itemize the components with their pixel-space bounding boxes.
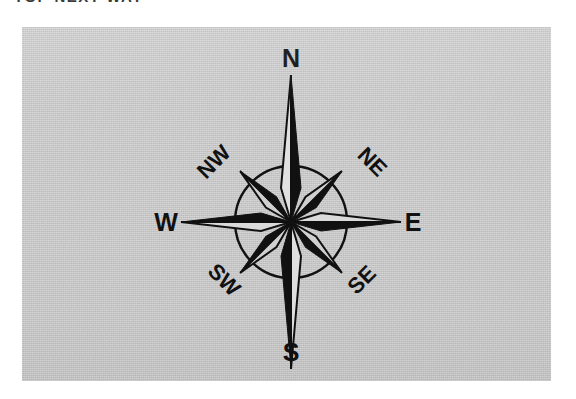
- clipped-caption-text: TOP NEXT WAY: [14, 0, 143, 5]
- compass-point-e: [291, 213, 401, 231]
- clipped-caption: TOP NEXT WAY: [0, 0, 576, 8]
- figure-panel: N E S W NE SE SW NW: [22, 27, 551, 381]
- compass-label-northeast: NE: [353, 142, 392, 181]
- compass-label-south: S: [283, 338, 300, 366]
- compass-hub: [288, 219, 295, 226]
- compass-rose-figure: N E S W NE SE SW NW: [22, 27, 551, 381]
- compass-label-east: E: [405, 208, 422, 236]
- compass-label-southwest: SW: [203, 258, 246, 301]
- compass-point-w: [181, 213, 291, 231]
- compass-point-n: [281, 75, 301, 222]
- compass-label-north: N: [282, 44, 300, 72]
- compass-label-southeast: SE: [342, 260, 380, 298]
- compass-label-west: W: [154, 208, 178, 236]
- compass-label-northwest: NW: [192, 140, 236, 184]
